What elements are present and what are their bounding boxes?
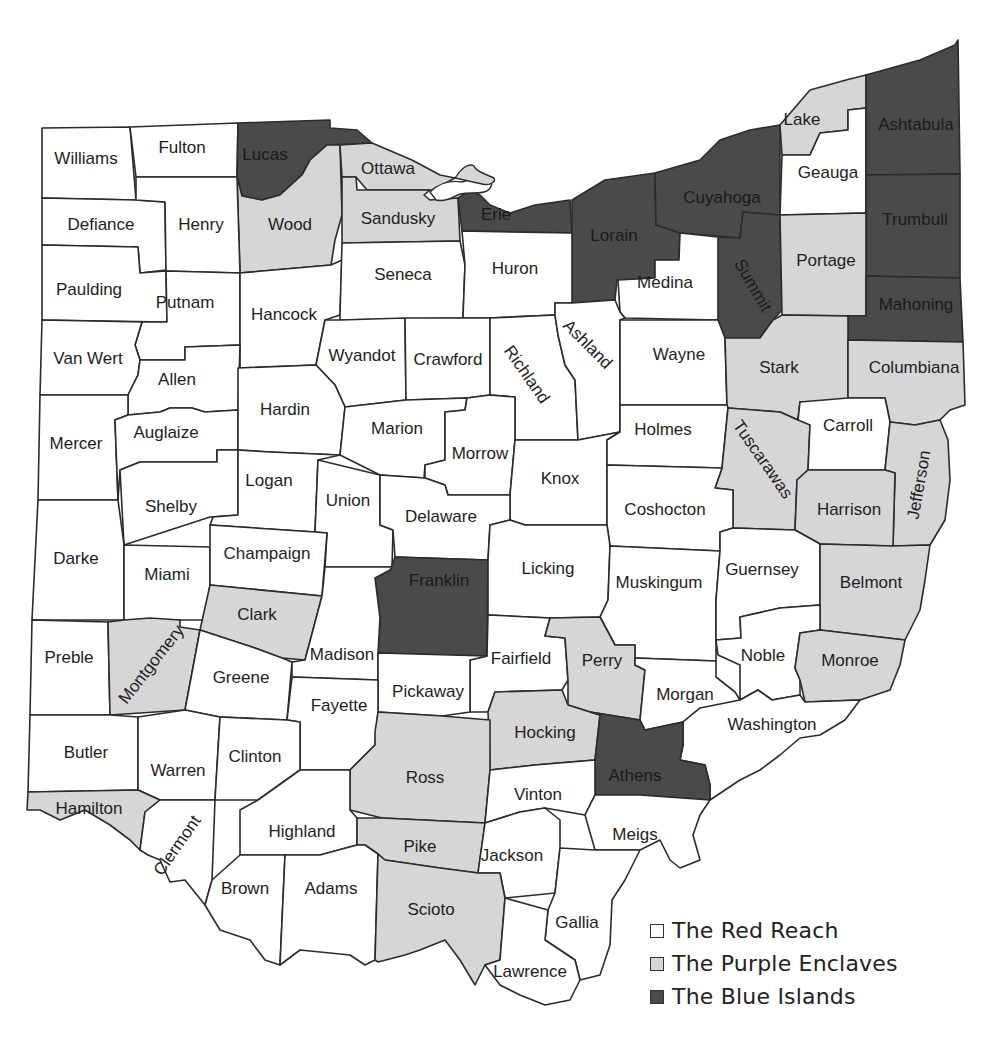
label-highland: Highland <box>268 822 335 841</box>
county-muskingum[interactable] <box>600 546 720 661</box>
label-delaware: Delaware <box>405 507 477 526</box>
county-brown[interactable] <box>205 855 285 965</box>
county-warren[interactable] <box>138 710 220 800</box>
legend-item-blue-islands: The Blue Islands <box>650 980 898 1013</box>
map-legend: The Red Reach The Purple Enclaves The Bl… <box>650 914 898 1013</box>
label-hamilton: Hamilton <box>55 799 122 818</box>
label-paulding: Paulding <box>56 280 122 299</box>
county-ashtabula[interactable] <box>866 40 960 175</box>
label-morrow: Morrow <box>452 444 509 463</box>
label-madison: Madison <box>310 645 374 664</box>
label-fayette: Fayette <box>311 696 368 715</box>
label-hardin: Hardin <box>260 400 310 419</box>
label-portage: Portage <box>796 251 856 270</box>
label-champaign: Champaign <box>224 544 311 563</box>
county-adams[interactable] <box>280 845 378 965</box>
label-trumbull: Trumbull <box>882 210 948 229</box>
label-meigs: Meigs <box>612 825 657 844</box>
label-belmont: Belmont <box>840 573 903 592</box>
label-lorain: Lorain <box>590 226 637 245</box>
label-logan: Logan <box>245 471 292 490</box>
county-erie[interactable] <box>458 190 572 233</box>
label-fulton: Fulton <box>158 138 205 157</box>
label-henry: Henry <box>178 215 224 234</box>
label-warren: Warren <box>150 761 205 780</box>
legend-item-purple-enclaves: The Purple Enclaves <box>650 947 898 980</box>
label-greene: Greene <box>213 668 270 687</box>
label-mahoning: Mahoning <box>879 295 954 314</box>
label-perry: Perry <box>582 651 623 670</box>
label-athens: Athens <box>609 766 662 785</box>
label-lawrence: Lawrence <box>493 962 567 981</box>
label-columbiana: Columbiana <box>869 358 960 377</box>
label-carroll: Carroll <box>823 416 873 435</box>
swatch-white-icon <box>650 924 664 938</box>
label-wyandot: Wyandot <box>329 346 396 365</box>
label-marion: Marion <box>371 419 423 438</box>
label-guernsey: Guernsey <box>725 560 799 579</box>
label-vinton: Vinton <box>514 785 562 804</box>
label-lucas: Lucas <box>242 145 287 164</box>
label-washington: Washington <box>727 715 816 734</box>
label-huron: Huron <box>492 259 538 278</box>
label-morgan: Morgan <box>656 685 714 704</box>
label-miami: Miami <box>144 565 189 584</box>
legend-label: The Red Reach <box>672 918 839 943</box>
label-williams: Williams <box>54 149 117 168</box>
legend-label: The Purple Enclaves <box>672 951 898 976</box>
label-preble: Preble <box>44 648 93 667</box>
label-hocking: Hocking <box>514 723 575 742</box>
label-stark: Stark <box>759 358 799 377</box>
label-pickaway: Pickaway <box>392 682 464 701</box>
label-scioto: Scioto <box>407 900 454 919</box>
label-adams: Adams <box>305 879 358 898</box>
label-geauga: Geauga <box>798 163 859 182</box>
label-putnam: Putnam <box>156 293 215 312</box>
label-union: Union <box>326 491 370 510</box>
label-jackson: Jackson <box>481 846 543 865</box>
label-ottawa: Ottawa <box>361 159 415 178</box>
label-ross: Ross <box>406 768 445 787</box>
legend-label: The Blue Islands <box>672 984 856 1009</box>
label-mercer: Mercer <box>50 434 103 453</box>
label-medina: Medina <box>637 273 693 292</box>
label-seneca: Seneca <box>374 265 432 284</box>
swatch-gray-icon <box>650 957 664 971</box>
label-brown: Brown <box>221 879 269 898</box>
label-clinton: Clinton <box>229 747 282 766</box>
label-gallia: Gallia <box>555 913 599 932</box>
label-cuyahoga: Cuyahoga <box>683 188 761 207</box>
label-holmes: Holmes <box>634 420 692 439</box>
label-ashtabula: Ashtabula <box>878 115 954 134</box>
label-wood: Wood <box>268 215 312 234</box>
legend-item-red-reach: The Red Reach <box>650 914 898 947</box>
label-defiance: Defiance <box>67 215 134 234</box>
label-hancock: Hancock <box>251 305 318 324</box>
label-auglaize: Auglaize <box>133 423 198 442</box>
county-preble[interactable] <box>30 620 110 715</box>
label-coshocton: Coshocton <box>624 500 705 519</box>
label-clark: Clark <box>237 605 277 624</box>
label-licking: Licking <box>522 559 575 578</box>
label-knox: Knox <box>541 469 580 488</box>
label-harrison: Harrison <box>817 500 881 519</box>
label-lake: Lake <box>784 110 821 129</box>
label-butler: Butler <box>64 743 109 762</box>
label-crawford: Crawford <box>414 350 483 369</box>
label-shelby: Shelby <box>145 497 197 516</box>
label-monroe: Monroe <box>821 651 879 670</box>
label-erie: Erie <box>481 205 511 224</box>
ohio-county-map: Williams Fulton Lucas Ottawa Wood Sandus… <box>0 0 981 1051</box>
label-muskingum: Muskingum <box>616 573 703 592</box>
label-wayne: Wayne <box>653 345 705 364</box>
label-sandusky: Sandusky <box>361 209 436 228</box>
label-pike: Pike <box>403 837 436 856</box>
label-darke: Darke <box>53 549 98 568</box>
label-allen: Allen <box>158 370 196 389</box>
swatch-dark-icon <box>650 990 664 1004</box>
label-noble: Noble <box>741 646 785 665</box>
label-van-wert: Van Wert <box>53 349 123 368</box>
label-fairfield: Fairfield <box>491 649 551 668</box>
label-franklin: Franklin <box>409 571 469 590</box>
